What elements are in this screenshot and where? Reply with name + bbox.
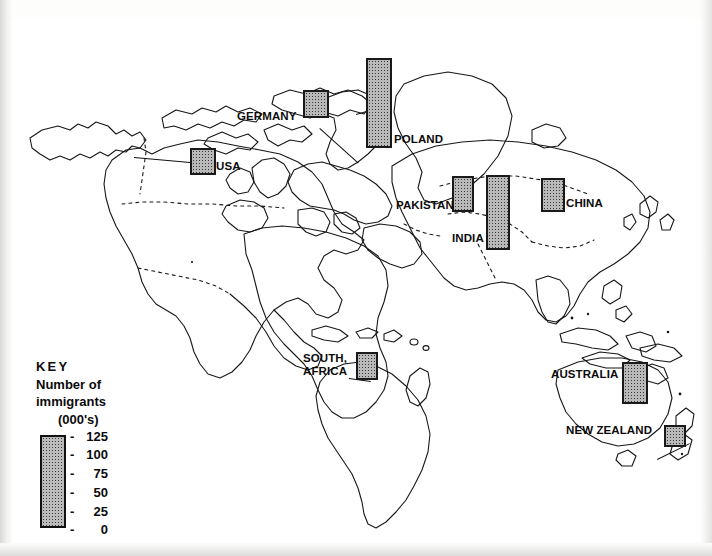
map-frame: [12, 18, 700, 543]
country-label-australia: AUSTRALIA: [551, 368, 618, 381]
country-label-south-africa-line2: AFRICA: [303, 365, 347, 377]
country-label-germany: GERMANY: [237, 110, 296, 123]
bar-new-zealand[interactable]: [664, 425, 686, 447]
bar-germany[interactable]: [303, 90, 329, 118]
country-label-south-africa: SOUTH, AFRICA: [303, 352, 347, 377]
legend-dash-100: -: [70, 447, 82, 462]
legend-tick-value-75: 75: [82, 466, 108, 481]
legend-tick-25: -25: [70, 504, 108, 519]
bar-china[interactable]: [541, 178, 565, 212]
legend-tick-value-0: 0: [82, 522, 108, 537]
world-map-outline: [12, 18, 698, 540]
map-legend: KEY Number of immigrants (000's): [36, 358, 106, 428]
legend-tick-125: -125: [70, 429, 108, 444]
scan-edge-left: [0, 0, 12, 556]
bar-poland[interactable]: [366, 58, 392, 148]
country-label-new-zealand: NEW ZEALAND: [566, 424, 652, 437]
legend-dash-25: -: [70, 504, 82, 519]
legend-tick-value-25: 25: [82, 504, 108, 519]
legend-tick-50: -50: [70, 485, 108, 500]
legend-dash-75: -: [70, 466, 82, 481]
legend-tick-75: -75: [70, 466, 108, 481]
legend-tick-value-125: 125: [82, 429, 108, 444]
page-bleed-text-top: [150, 0, 570, 10]
country-label-usa: USA: [216, 160, 241, 173]
bar-south-africa[interactable]: [356, 352, 378, 380]
bar-india[interactable]: [486, 175, 510, 250]
legend-dash-0: -: [70, 522, 82, 537]
country-label-poland: POLAND: [394, 133, 443, 146]
legend-dash-125: -: [70, 429, 82, 444]
legend-line-2: immigrants: [36, 393, 106, 411]
legend-title: KEY: [36, 358, 106, 376]
bar-pakistan[interactable]: [452, 176, 474, 212]
legend-dash-50: -: [70, 485, 82, 500]
country-label-china: CHINA: [566, 197, 603, 210]
legend-tick-100: -100: [70, 447, 108, 462]
legend-tick-value-100: 100: [82, 447, 108, 462]
bar-australia[interactable]: [622, 362, 648, 404]
bar-usa[interactable]: [190, 148, 216, 175]
legend-units: (000's): [36, 411, 106, 429]
country-label-india: INDIA: [452, 232, 484, 245]
scan-edge-bottom: [0, 543, 712, 556]
scan-edge-right: [701, 0, 712, 556]
legend-tick-0: -0: [70, 522, 108, 537]
legend-scale-bar: [40, 435, 66, 528]
country-label-south-africa-line1: SOUTH,: [303, 352, 347, 364]
legend-tick-value-50: 50: [82, 485, 108, 500]
legend-line-1: Number of: [36, 376, 106, 394]
country-label-pakistan: PAKISTAN: [396, 199, 454, 212]
